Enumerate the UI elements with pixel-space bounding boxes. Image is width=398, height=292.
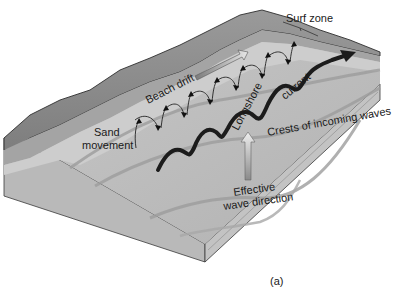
label-sand: Sand: [94, 126, 120, 138]
figure-caption: (a): [270, 275, 283, 287]
longshore-current-diagram: Surf zone Beach drift Sand movement Long…: [0, 0, 398, 292]
label-surf-zone: Surf zone: [286, 12, 333, 24]
label-movement: movement: [82, 139, 133, 151]
